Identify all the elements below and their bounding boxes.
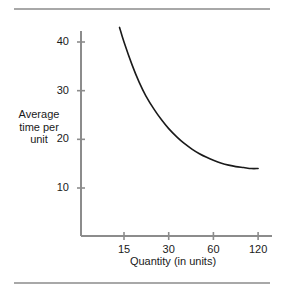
x-axis-tick-label: 30 [152,243,186,255]
y-axis-tick-label: 10 [45,181,69,193]
y-axis-title-line: unit [6,133,72,146]
x-axis-tick-label: 120 [241,243,275,255]
y-axis-title: Averagetime perunit [6,108,72,146]
learning-curve-line [120,27,259,168]
figure-container: 10203040 153060120 Averagetime perunit Q… [0,0,283,289]
x-axis-tick-label: 60 [196,243,230,255]
y-axis-tick-label: 40 [45,35,69,47]
axes-group [81,31,272,236]
y-axis-title-line: time per [6,121,72,134]
x-axis-title: Quantity (in units) [83,255,263,267]
x-axis-tick-label: 15 [107,243,141,255]
y-axis-tick-label: 30 [45,84,69,96]
y-axis-title-line: Average [6,108,72,121]
